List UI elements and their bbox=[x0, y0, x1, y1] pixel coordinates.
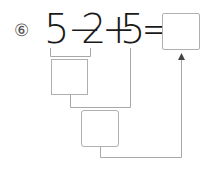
connector-step2-to-answer bbox=[101, 60, 182, 158]
connector-lines bbox=[0, 0, 205, 169]
bracket-5-minus-2 bbox=[51, 48, 91, 57]
arrow-up-icon bbox=[178, 53, 185, 60]
